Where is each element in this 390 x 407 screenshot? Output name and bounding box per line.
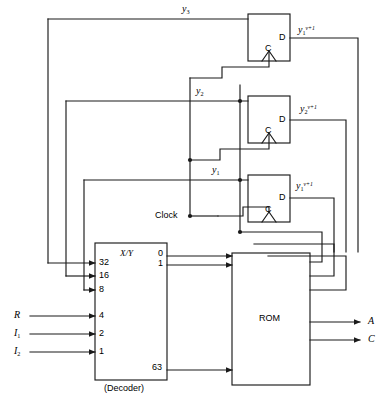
wire-clock-to-ff3 [190, 51, 269, 78]
circuit-diagram: y3 y2 y1 D C D C D C y1v+1 y2v+1 y1v+1 C… [0, 0, 390, 407]
flipflop-3-clock-label: C [265, 44, 272, 53]
junction-dot-y2 [238, 99, 242, 103]
input-label-I2: I2 [14, 346, 20, 357]
output-label-C: C [368, 334, 375, 344]
input-label-R: R [14, 310, 20, 320]
wire-clock-to-ff1 [218, 207, 269, 216]
flipflop-1-output-label: y1v+1 [296, 181, 313, 192]
flipflop-1-data-label: D [279, 193, 286, 202]
input-label-I1: I1 [14, 328, 20, 339]
flipflop-2-output-label: y2v+1 [300, 104, 317, 115]
junction-dot-clock-2 [188, 158, 192, 162]
flipflop-1-clock-label: C [265, 205, 272, 214]
clock-label: Clock [155, 211, 178, 220]
decoder-input-8-label: 8 [99, 285, 104, 294]
decoder-input-32-label: 32 [99, 258, 109, 267]
wire-ff3-output [290, 38, 358, 252]
flipflop-3-output-label: y1v+1 [298, 25, 315, 36]
output-label-A: A [368, 316, 374, 326]
signal-label-y3: y3 [182, 4, 190, 15]
wire-clock-to-ff2 [190, 133, 269, 160]
signal-label-y2: y2 [196, 86, 204, 97]
flipflop-2-data-label: D [279, 115, 286, 124]
junction-dot-y1 [238, 178, 242, 182]
wire-layer [0, 0, 390, 407]
junction-dot-clock-1 [188, 214, 192, 218]
decoder-output-1-label: 1 [158, 259, 163, 268]
flipflop-2-clock-label: C [265, 126, 272, 135]
signal-label-y1: y1 [212, 165, 220, 176]
junction-dot-rom-fb [238, 230, 242, 234]
decoder-input-4-label: 4 [99, 311, 104, 320]
rom-label: ROM [259, 314, 280, 323]
decoder-input-16-label: 16 [99, 271, 109, 280]
decoder-output-0-label: 0 [158, 249, 163, 258]
decoder-input-1-label: 1 [99, 347, 104, 356]
decoder-input-2-label: 2 [99, 329, 104, 338]
flipflop-3-data-label: D [279, 33, 286, 42]
decoder-function-label: X/Y [120, 249, 133, 258]
decoder-output-63-label: 63 [152, 363, 162, 372]
decoder-caption: (Decoder) [104, 384, 144, 393]
